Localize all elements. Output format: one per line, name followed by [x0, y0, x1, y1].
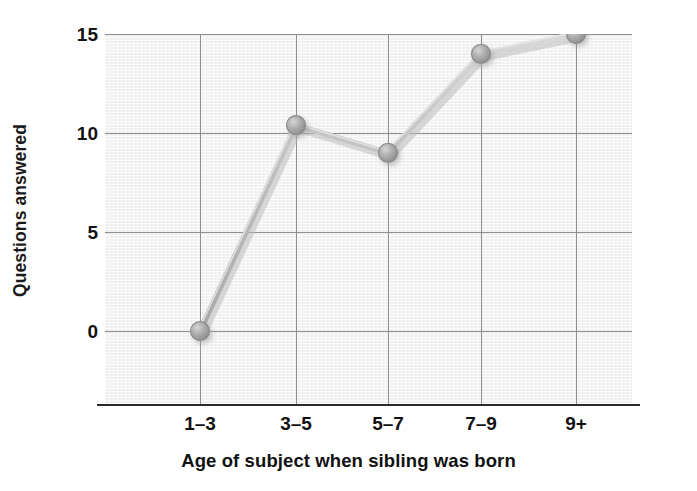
- x-axis-tick-labels: 1–3 3–5 5–7 7–9 9+: [0, 414, 697, 444]
- series-line: [200, 34, 576, 331]
- data-point-5-7: [379, 143, 398, 162]
- y-tick-label-5: 5: [52, 223, 98, 242]
- data-point-7-9: [472, 44, 491, 63]
- data-series: [105, 34, 632, 404]
- x-axis-line: [97, 404, 640, 406]
- x-axis-title: Age of subject when sibling was born: [0, 450, 697, 472]
- y-tick-label-10: 10: [52, 124, 98, 143]
- plot-area: [105, 34, 632, 404]
- series-line-shadow: [203, 38, 579, 335]
- y-tick-label-0: 0: [52, 322, 98, 341]
- data-point-1-3: [191, 322, 210, 341]
- y-axis-title: Questions answered: [0, 0, 40, 420]
- y-axis-title-text: Questions answered: [10, 124, 31, 297]
- data-point-3-5: [287, 116, 306, 135]
- x-tick-label-9plus: 9+: [516, 414, 636, 435]
- y-tick-label-15: 15: [52, 25, 98, 44]
- chart-figure: Questions answered 15 10 5 0: [0, 0, 697, 491]
- series-line-highlight: [199, 34, 575, 329]
